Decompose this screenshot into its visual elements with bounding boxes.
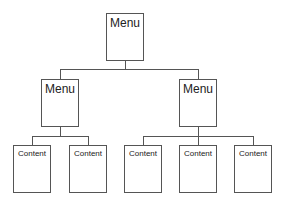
node-label: Content — [14, 149, 50, 158]
connector — [60, 127, 61, 136]
content-node-4: Content — [179, 145, 217, 193]
connector — [143, 136, 144, 145]
connector — [88, 136, 89, 145]
content-node-2: Content — [69, 145, 107, 193]
connector — [198, 136, 199, 145]
node-label: Content — [235, 149, 271, 158]
connector — [32, 136, 33, 145]
node-label: Content — [180, 149, 216, 158]
content-node-3: Content — [124, 145, 162, 193]
menu-node-right: Menu — [179, 79, 217, 127]
node-label: Menu — [107, 16, 143, 30]
connector — [253, 136, 254, 145]
connector — [198, 127, 199, 136]
connector — [32, 136, 89, 137]
connector — [60, 69, 199, 70]
content-node-1: Content — [13, 145, 51, 193]
node-label: Content — [125, 149, 161, 158]
root-menu-node: Menu — [106, 13, 144, 61]
node-label: Content — [70, 149, 106, 158]
node-label: Menu — [42, 82, 78, 96]
node-label: Menu — [180, 82, 216, 96]
connector — [198, 69, 199, 79]
content-node-5: Content — [234, 145, 272, 193]
connector — [60, 69, 61, 79]
menu-node-left: Menu — [41, 79, 79, 127]
